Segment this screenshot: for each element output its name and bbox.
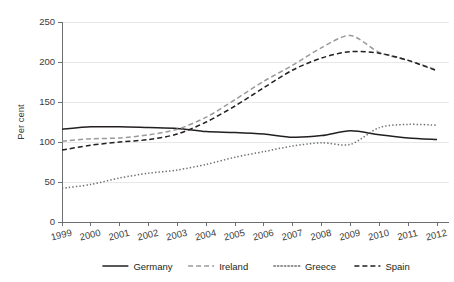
legend-label-ireland: Ireland	[219, 261, 248, 272]
legend-label-spain: Spain	[385, 261, 409, 272]
y-tick-label: 150	[39, 96, 55, 107]
y-tick-label: 100	[39, 136, 55, 147]
y-tick-label: 200	[39, 56, 55, 67]
legend-label-greece: Greece	[305, 261, 336, 272]
chart-figure: 050100150200250 199920002001200220032004…	[0, 0, 454, 282]
y-tick-label: 250	[39, 16, 55, 27]
y-tick-label: 50	[44, 176, 55, 187]
line-chart: 050100150200250 199920002001200220032004…	[0, 0, 454, 282]
y-axis-title: Per cent	[15, 104, 26, 140]
legend-label-germany: Germany	[133, 261, 172, 272]
y-tick-label: 0	[50, 216, 55, 227]
